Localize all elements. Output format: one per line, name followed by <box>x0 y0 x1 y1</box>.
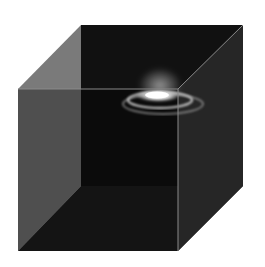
galaxy-cube-illustration <box>0 0 265 267</box>
